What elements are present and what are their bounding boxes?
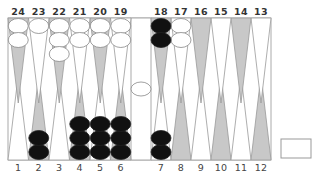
black-checker[interactable] [151, 19, 171, 34]
black-checker[interactable] [70, 131, 90, 146]
point-label-23: 23 [29, 6, 49, 17]
point-label-16: 16 [191, 6, 211, 17]
black-checker[interactable] [29, 131, 49, 146]
board-canvas [0, 0, 319, 175]
black-checker[interactable] [151, 33, 171, 48]
point-label-4: 4 [70, 162, 90, 173]
point-label-24: 24 [8, 6, 28, 17]
white-checker[interactable] [171, 19, 191, 34]
white-checker[interactable] [90, 19, 110, 34]
point-label-22: 22 [49, 6, 69, 17]
point-label-12: 12 [251, 162, 271, 173]
black-checker[interactable] [111, 145, 131, 160]
black-checker[interactable] [70, 145, 90, 160]
black-checker[interactable] [70, 117, 90, 132]
point-label-21: 21 [70, 6, 90, 17]
black-checker[interactable] [151, 145, 171, 160]
white-checker[interactable] [171, 33, 191, 48]
black-checker[interactable] [90, 117, 110, 132]
point-label-13: 13 [251, 6, 271, 17]
white-checker[interactable] [49, 33, 69, 48]
point-label-2: 2 [29, 162, 49, 173]
white-checker[interactable] [49, 19, 69, 34]
black-checker[interactable] [111, 131, 131, 146]
white-checker[interactable] [8, 19, 28, 34]
point-label-20: 20 [90, 6, 110, 17]
white-checker[interactable] [49, 47, 69, 62]
point-label-7: 7 [151, 162, 171, 173]
black-checker[interactable] [90, 145, 110, 160]
point-label-9: 9 [191, 162, 211, 173]
point-label-3: 3 [49, 162, 69, 173]
point-label-11: 11 [231, 162, 251, 173]
point-label-18: 18 [151, 6, 171, 17]
doubling-cube-box[interactable] [281, 139, 311, 158]
black-checker[interactable] [90, 131, 110, 146]
point-label-19: 19 [111, 6, 131, 17]
white-checker[interactable] [70, 19, 90, 34]
white-checker[interactable] [111, 19, 131, 34]
point-label-5: 5 [90, 162, 110, 173]
white-checker[interactable] [111, 33, 131, 48]
white-checker[interactable] [70, 33, 90, 48]
point-label-15: 15 [211, 6, 231, 17]
point-label-1: 1 [8, 162, 28, 173]
white-checker[interactable] [29, 19, 49, 34]
point-label-8: 8 [171, 162, 191, 173]
white-checker-on-bar[interactable] [131, 82, 151, 96]
point-label-6: 6 [111, 162, 131, 173]
point-label-14: 14 [231, 6, 251, 17]
backgammon-board [0, 0, 319, 175]
point-label-17: 17 [171, 6, 191, 17]
black-checker[interactable] [29, 145, 49, 160]
white-checker[interactable] [8, 33, 28, 48]
white-checker[interactable] [90, 33, 110, 48]
black-checker[interactable] [151, 131, 171, 146]
black-checker[interactable] [111, 117, 131, 132]
point-label-10: 10 [211, 162, 231, 173]
